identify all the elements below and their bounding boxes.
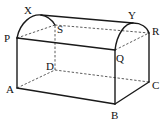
label-D: D — [46, 60, 54, 72]
edge-XY — [41, 15, 133, 23]
label-S: S — [57, 23, 63, 35]
label-X: X — [24, 4, 32, 16]
edge-SR — [55, 25, 149, 33]
edge-AD — [17, 70, 55, 88]
edge-DC — [55, 70, 149, 82]
label-Y: Y — [128, 9, 136, 21]
arc-PXS — [17, 15, 55, 38]
label-B: B — [111, 109, 118, 121]
edge-QR — [115, 33, 149, 50]
edge-BC — [115, 82, 149, 104]
label-P: P — [4, 32, 10, 44]
edge-AB — [17, 88, 115, 104]
label-Q: Q — [116, 52, 124, 64]
edge-PS — [17, 25, 55, 38]
arc-QYR — [115, 23, 149, 50]
label-A: A — [6, 83, 14, 95]
edge-PQ — [17, 38, 115, 50]
box-with-arched-top-diagram: X Y P S Q R D A B C — [0, 0, 167, 122]
label-R: R — [152, 25, 160, 37]
label-C: C — [152, 79, 159, 91]
